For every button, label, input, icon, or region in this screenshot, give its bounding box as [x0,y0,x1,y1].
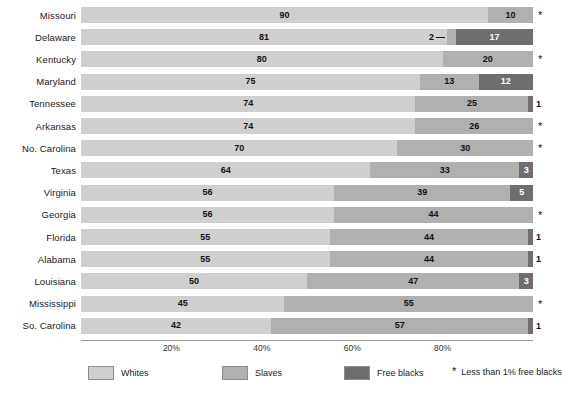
segment-value: 75 [245,77,255,86]
row-label-tennessee: Tennessee [0,94,76,114]
chart-row: Mississippi4555* [0,294,550,314]
segment-slaves: 20 [443,51,533,67]
row-label-missouri: Missouri [0,5,76,25]
segment-free-blacks: 12 [479,74,533,90]
segment-whites: 56 [81,185,334,201]
x-axis-tick-label: 20% [163,343,180,353]
segment-whites: 64 [81,162,370,178]
segment-value: 81 [259,33,269,42]
segment-slaves: 57 [271,318,529,334]
stacked-bar: 5544 [81,229,533,245]
legend-item-free-blacks[interactable]: Free blacks [344,366,424,380]
segment-slaves: 44 [330,251,529,267]
segment-free-blacks: 3 [519,273,533,289]
segment-value: 26 [469,122,479,131]
segment-value: 56 [203,210,213,219]
less-than-one-percent-star-icon: * [538,143,542,154]
segment-callout-slaves: 2 [429,32,447,42]
legend-footnote: *Less than 1% free blacks [452,366,562,377]
segment-whites: 74 [81,118,415,134]
segment-slaves: 33 [370,162,519,178]
segment-value: 50 [189,277,199,286]
segment-value: 57 [395,321,405,330]
row-label-mississippi: Mississippi [0,294,76,314]
segment-free-blacks [528,251,533,267]
legend-item-slaves[interactable]: Slaves [222,366,282,380]
x-axis: 20%40%60%80% [0,340,550,358]
callout-leader-line [436,37,445,38]
segment-value: 17 [490,33,500,42]
segment-value: 90 [279,11,289,20]
chart-row: Alabama15544 [0,249,550,269]
callout-value: 2 [429,32,434,42]
segment-value: 20 [483,55,493,64]
chart-row: Florida15544 [0,227,550,247]
segment-slaves: 39 [334,185,510,201]
stacked-bar: 8020 [81,51,533,67]
legend-label: Slaves [255,368,282,378]
row-label-maryland: Maryland [0,72,76,92]
segment-value: 3 [524,166,529,175]
segment-value: 12 [501,77,511,86]
chart-row: Kentucky8020* [0,49,550,69]
segment-value: 70 [234,144,244,153]
stacked-bar: 751312 [81,74,533,90]
segment-value: 64 [221,166,231,175]
segment-value: 44 [429,210,439,219]
segment-whites: 45 [81,296,284,312]
legend-swatch [222,366,248,380]
less-than-one-percent-star-icon: * [538,10,542,21]
chart-row: Tennessee17425 [0,94,550,114]
stacked-bar: 7425 [81,96,533,112]
x-axis-tick-label: 60% [344,343,361,353]
segment-value: 74 [243,99,253,108]
legend-item-whites[interactable]: Whites [88,366,149,380]
stacked-bar: 5644 [81,207,533,223]
stacked-bar: 7426 [81,118,533,134]
segment-value: 45 [178,299,188,308]
row-label-alabama: Alabama [0,249,76,269]
chart-row: So. Carolina14257 [0,316,550,336]
segment-free-blacks-value: 1 [536,232,541,242]
segment-slaves: 10 [488,7,533,23]
chart-row: Maryland751312 [0,72,550,92]
chart-legend: WhitesSlavesFree blacks*Less than 1% fre… [0,362,550,394]
chart-row: Missouri9010* [0,5,550,25]
row-label-arkansas: Arkansas [0,116,76,136]
less-than-one-percent-star-icon: * [538,54,542,65]
row-label-so-carolina: So. Carolina [0,316,76,336]
legend-label: Free blacks [377,368,424,378]
stacked-bar: 4555 [81,296,533,312]
stacked-bar: 7030 [81,140,533,156]
segment-value: 55 [404,299,414,308]
segment-value: 13 [444,77,454,86]
less-than-one-percent-star-icon: * [538,209,542,220]
segment-whites: 55 [81,229,330,245]
segment-slaves: 13 [420,74,479,90]
row-label-georgia: Georgia [0,205,76,225]
segment-value: 74 [243,122,253,131]
segment-slaves: 47 [307,273,519,289]
segment-whites: 42 [81,318,271,334]
segment-value: 10 [505,11,515,20]
segment-whites: 70 [81,140,397,156]
row-label-no-carolina: No. Carolina [0,138,76,158]
less-than-one-percent-star-icon: * [538,121,542,132]
row-label-louisiana: Louisiana [0,271,76,291]
segment-free-blacks [528,318,533,334]
segment-free-blacks: 5 [510,185,533,201]
segment-value: 80 [257,55,267,64]
segment-free-blacks-value: 1 [536,321,541,331]
segment-slaves: 30 [397,140,533,156]
segment-value: 39 [417,188,427,197]
row-label-delaware: Delaware [0,27,76,47]
stacked-bar: 56395 [81,185,533,201]
segment-free-blacks: 17 [456,29,533,45]
segment-slaves: 55 [284,296,533,312]
segment-value: 42 [171,321,181,330]
segment-whites: 75 [81,74,420,90]
less-than-one-percent-star-icon: * [538,298,542,309]
segment-free-blacks: 3 [519,162,533,178]
segment-whites: 90 [81,7,488,23]
